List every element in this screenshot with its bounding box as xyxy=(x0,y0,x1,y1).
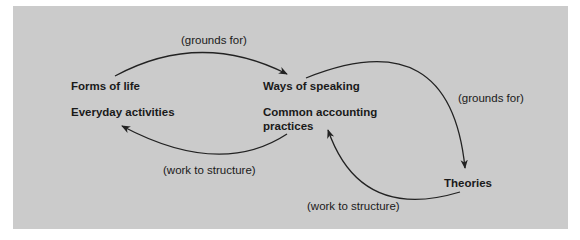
node-common-accounting: Common accounting xyxy=(263,105,377,119)
edge-label-grounds-for-right: (grounds for) xyxy=(458,91,524,105)
node-everyday-activities: Everyday activities xyxy=(71,105,175,119)
edge-label-work-to-structure-left: (work to structure) xyxy=(163,163,256,177)
edge-label-work-to-structure-right: (work to structure) xyxy=(307,199,400,213)
node-common-accounting-practices: practices xyxy=(263,119,314,133)
node-ways-of-speaking: Ways of speaking xyxy=(263,79,360,93)
edge-label-grounds-for-top: (grounds for) xyxy=(181,33,247,47)
node-forms-of-life: Forms of life xyxy=(71,79,140,93)
arrow-work-to-structure-right xyxy=(328,130,460,199)
arrow-grounds-for-top xyxy=(115,52,287,76)
node-theories: Theories xyxy=(444,176,492,190)
